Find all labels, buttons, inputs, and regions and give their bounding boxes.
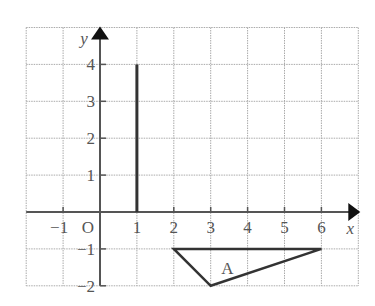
x-tick-label: 1 bbox=[133, 218, 142, 237]
origin-label: O bbox=[82, 218, 94, 237]
x-axis-label: x bbox=[346, 219, 355, 238]
y-tick-label: −2 bbox=[77, 277, 95, 296]
x-tick-label: 4 bbox=[243, 218, 252, 237]
y-tick-label: 1 bbox=[87, 166, 96, 185]
y-tick-label: 3 bbox=[87, 92, 96, 111]
x-tick-label: 2 bbox=[170, 218, 179, 237]
y-axis-arrow-icon bbox=[91, 27, 109, 40]
triangle-label: A bbox=[221, 259, 234, 278]
x-tick-label: −1 bbox=[50, 218, 68, 237]
x-tick-label: 5 bbox=[280, 218, 289, 237]
y-axis-label: y bbox=[78, 29, 88, 48]
coordinate-plane: −11234564321−1−2OxyA bbox=[0, 0, 375, 306]
y-tick-label: −1 bbox=[77, 240, 95, 259]
y-tick-label: 4 bbox=[87, 55, 96, 74]
x-tick-label: 6 bbox=[317, 218, 326, 237]
y-tick-label: 2 bbox=[87, 129, 96, 148]
x-tick-label: 3 bbox=[206, 218, 215, 237]
